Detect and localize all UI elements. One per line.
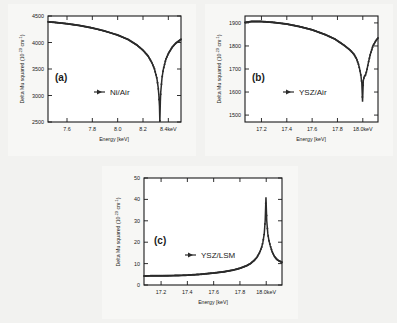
data-point — [151, 62, 153, 64]
plot-panel-a: 25003000350040004500 7.67.88.08.28.4keV … — [8, 4, 196, 156]
data-point — [358, 66, 360, 68]
data-point — [155, 74, 157, 76]
x-tick-label: 8.2 — [139, 126, 147, 132]
data-point — [268, 240, 270, 242]
data-point — [157, 82, 159, 84]
plot-c-svg: 01020304050 17.217.417.617.818.0keV (c) … — [102, 166, 298, 319]
y-tick-label: 1600 — [229, 89, 241, 95]
data-point — [160, 93, 162, 95]
y-tick-label: 1500 — [229, 112, 241, 118]
x-tick-label: 7.8 — [89, 126, 97, 132]
x-tick-label: 18.0keV — [256, 289, 276, 295]
panel-b-x-axis-title: Energy [keV] — [296, 136, 326, 142]
data-point — [357, 63, 359, 65]
data-point — [365, 71, 367, 73]
data-point — [152, 64, 154, 66]
panel-c-y-axis-title: Delta Mu squared (10-20 cm-1) — [115, 197, 121, 266]
plot-a-svg: 25003000350040004500 7.67.88.08.28.4keV … — [8, 4, 196, 156]
panel-a-plot-area — [48, 16, 181, 122]
x-tick-label: 8.4keV — [160, 126, 177, 132]
x-tick-label: 18.0keV — [353, 126, 373, 132]
data-point — [367, 64, 369, 66]
data-point — [160, 83, 162, 85]
data-point — [372, 46, 374, 48]
panel-c-legend-label: YSZ/LSM — [201, 251, 236, 260]
y-tick-label: 0 — [137, 282, 140, 288]
y-tick-label: 1700 — [229, 66, 241, 72]
data-point — [271, 251, 273, 253]
y-tick-label: 2500 — [32, 119, 44, 125]
x-tick-label: 17.6 — [307, 126, 318, 132]
data-point — [368, 57, 370, 59]
data-point — [361, 80, 363, 82]
data-point — [161, 76, 163, 78]
data-point — [164, 60, 166, 62]
data-point — [180, 38, 182, 40]
data-point — [360, 74, 362, 76]
y-tick-label: 20 — [134, 239, 140, 245]
panel-b-label: (b) — [252, 72, 265, 83]
data-point — [264, 223, 266, 225]
x-tick-label: 17.4 — [282, 126, 293, 132]
y-tick-label: 3000 — [32, 93, 44, 99]
data-point — [265, 202, 267, 204]
y-tick-label: 40 — [134, 196, 140, 202]
data-point — [281, 261, 283, 263]
data-point — [262, 243, 264, 245]
data-point — [270, 246, 272, 248]
data-point — [261, 246, 263, 248]
data-point — [266, 215, 268, 217]
y-tick-label: 1900 — [229, 20, 241, 26]
data-point — [359, 70, 361, 72]
x-tick-label: 17.2 — [256, 126, 267, 132]
data-point — [266, 228, 268, 230]
plot-b-svg: 15001600170018001900 17.217.417.617.818.… — [205, 4, 393, 156]
panel-a-y-axis-title: Delta Mu squared (10-20 cm-1) — [19, 34, 25, 103]
data-point — [259, 250, 261, 252]
panel-b-y-axis-title: Delta Mu squared (10-20 cm-1) — [216, 34, 222, 103]
x-tick-label: 17.6 — [208, 289, 219, 295]
x-tick-label: 17.8 — [235, 289, 246, 295]
y-tick-label: 10 — [134, 261, 140, 267]
data-point — [357, 61, 359, 63]
data-point — [158, 99, 160, 101]
y-tick-label: 4500 — [32, 13, 44, 19]
data-point — [368, 61, 370, 63]
y-tick-label: 1800 — [229, 43, 241, 49]
data-point — [365, 74, 367, 76]
data-point — [370, 51, 372, 53]
x-tick-label: 8.0 — [114, 126, 122, 132]
panel-b-plot-area — [245, 16, 378, 122]
data-point — [269, 243, 271, 245]
x-tick-label: 7.6 — [63, 126, 71, 132]
data-point — [272, 253, 274, 255]
data-point — [262, 239, 264, 241]
y-tick-label: 50 — [134, 175, 140, 181]
data-point — [153, 68, 155, 70]
panel-c-x-axis-title: Energy [keV] — [198, 299, 228, 305]
y-tick-label: 30 — [134, 218, 140, 224]
plot-panel-c: 01020304050 17.217.417.617.818.0keV (c) … — [102, 166, 298, 319]
data-point — [156, 77, 158, 79]
x-tick-label: 17.2 — [156, 289, 167, 295]
panel-b-legend-label: YSZ/Air — [299, 88, 327, 97]
data-point — [263, 233, 265, 235]
data-point — [267, 235, 269, 237]
panel-a-legend-label: Ni/Air — [110, 88, 130, 97]
y-tick-label: 4000 — [32, 40, 44, 46]
data-point — [159, 120, 161, 122]
data-point — [362, 84, 364, 86]
data-point — [167, 54, 169, 56]
panel-a-x-axis-title: Energy [keV] — [99, 136, 129, 142]
data-point — [355, 57, 357, 59]
data-point — [157, 88, 159, 90]
x-tick-label: 17.8 — [332, 126, 343, 132]
panel-c-plot-area — [144, 178, 282, 285]
panel-c-label: (c) — [154, 235, 166, 246]
data-point — [260, 248, 262, 250]
data-point — [356, 59, 358, 61]
data-point — [258, 252, 260, 254]
data-point — [166, 56, 168, 58]
data-point — [163, 67, 165, 69]
data-point — [165, 58, 167, 60]
